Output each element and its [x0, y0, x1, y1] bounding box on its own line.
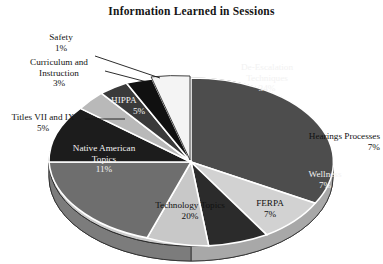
- label-hearings-processes: Hearings Processes 7%: [256, 131, 380, 152]
- label-technology-value: 20%: [137, 211, 243, 222]
- label-titles-value: 5%: [2, 123, 84, 134]
- label-curriculum-name-line2: Instruction: [13, 68, 105, 79]
- label-safety-value: 1%: [30, 43, 92, 54]
- label-hippa: HIPPA 5%: [111, 95, 187, 116]
- pie-chart-figure: Information Learned in Sessions: [0, 0, 383, 264]
- label-technology-topics: Technology Topics 20%: [137, 200, 243, 221]
- label-safety-name: Safety: [30, 32, 92, 43]
- label-titles-vii-and-ix: Titles VII and IX 5%: [2, 112, 84, 133]
- label-hippa-name: HIPPA: [111, 95, 187, 106]
- label-curriculum-name-line1: Curriculum and: [13, 57, 105, 68]
- label-safety: Safety 1%: [30, 32, 92, 53]
- label-native-name-line2: Topics: [52, 154, 156, 165]
- label-hippa-value: 5%: [133, 106, 187, 117]
- label-ferpa-name: FERPA: [240, 198, 300, 209]
- label-de-escalation-name-line1: De-Escalation: [207, 62, 327, 73]
- label-technology-name: Technology Topics: [137, 200, 243, 211]
- label-wellness-name: Wellness: [289, 169, 361, 180]
- label-curriculum-and-instruction: Curriculum and Instruction 3%: [13, 57, 105, 89]
- label-curriculum-value: 3%: [13, 78, 105, 89]
- label-de-escalation-techniques: De-Escalation Techniques 34%: [207, 62, 327, 94]
- label-hearings-name: Hearings Processes: [256, 131, 380, 142]
- label-de-escalation-name-line2: Techniques: [207, 73, 327, 84]
- label-native-american-topics: Native American Topics 11%: [52, 143, 156, 175]
- label-de-escalation-value: 34%: [207, 83, 327, 94]
- label-hearings-value: 7%: [256, 142, 380, 153]
- label-native-value: 11%: [52, 164, 156, 175]
- label-wellness-value: 7%: [289, 180, 361, 191]
- label-titles-name: Titles VII and IX: [2, 112, 84, 123]
- label-ferpa-value: 7%: [240, 209, 300, 220]
- label-native-name-line1: Native American: [52, 143, 156, 154]
- label-ferpa: FERPA 7%: [240, 198, 300, 219]
- label-wellness: Wellness 7%: [289, 169, 361, 190]
- leader-line-curriculum: [105, 71, 147, 82]
